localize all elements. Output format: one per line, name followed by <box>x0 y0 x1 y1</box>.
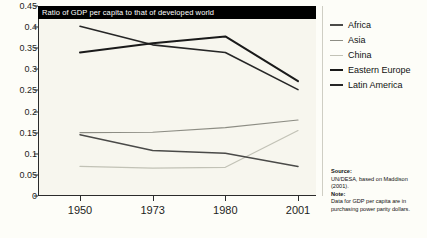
y-axis-tick-label: 0.3 <box>3 64 37 74</box>
y-axis-tick-label: 0.45 <box>3 1 37 11</box>
x-axis-tick-label: 2001 <box>286 204 310 216</box>
chart-screenshot: 00.050.10.150.20.250.30.350.40.45 195019… <box>0 0 427 238</box>
legend-item-label: China <box>348 50 372 60</box>
x-axis-tick-mark <box>225 196 226 201</box>
legend-item-label: Africa <box>348 20 371 30</box>
legend-item[interactable]: Eastern Europe <box>330 63 425 77</box>
note-text: Data for GDP per capita are in purchasin… <box>331 198 425 213</box>
y-axis-tick-label: 0 <box>3 191 37 201</box>
y-axis-tick-label: 0.15 <box>3 128 37 138</box>
legend-item[interactable]: Asia <box>330 33 425 47</box>
x-axis-tick-label: 1950 <box>68 204 92 216</box>
source-heading: Source: <box>331 168 425 176</box>
legend: AfricaAsiaChinaEastern EuropeLatin Ameri… <box>330 18 425 93</box>
series-line <box>80 36 298 81</box>
y-axis: 00.050.10.150.20.250.30.350.40.45 <box>0 0 37 238</box>
note-heading: Note: <box>331 191 425 199</box>
x-axis-tick-mark <box>298 196 299 201</box>
legend-line-icon <box>330 24 343 26</box>
y-axis-tick-label: 0.35 <box>3 43 37 53</box>
legend-item-label: Eastern Europe <box>348 65 411 75</box>
legend-line-icon <box>330 55 343 56</box>
source-and-note: Source: UN/DESA, based on Maddison (2001… <box>331 168 425 214</box>
series-line <box>80 131 298 169</box>
legend-item-label: Asia <box>348 35 366 45</box>
data-lines <box>38 6 316 196</box>
column-divider <box>322 6 323 196</box>
legend-item-label: Latin America <box>348 80 403 90</box>
legend-line-icon <box>330 69 343 71</box>
source-text: UN/DESA, based on Maddison (2001). <box>331 176 425 191</box>
series-line <box>80 120 298 133</box>
series-line <box>80 26 298 89</box>
y-axis-tick-label: 0.4 <box>3 22 37 32</box>
legend-item[interactable]: Latin America <box>330 78 425 92</box>
y-axis-tick-label: 0.25 <box>3 85 37 95</box>
chart-title: Ratio of GDP per capita to that of devel… <box>38 6 316 19</box>
legend-line-icon <box>330 84 343 86</box>
legend-line-icon <box>330 40 343 41</box>
y-axis-tick-label: 0.05 <box>3 170 37 180</box>
legend-item[interactable]: Africa <box>330 18 425 32</box>
y-axis-tick-label: 0.2 <box>3 107 37 117</box>
x-axis-tick-label: 1980 <box>213 204 237 216</box>
series-line <box>80 135 298 167</box>
x-axis-tick-mark <box>80 196 81 201</box>
chart-area: 00.050.10.150.20.250.30.350.40.45 195019… <box>0 0 320 238</box>
legend-item[interactable]: China <box>330 48 425 62</box>
x-axis-tick-label: 1973 <box>140 204 164 216</box>
x-axis-tick-mark <box>153 196 154 201</box>
y-axis-tick-label: 0.1 <box>3 149 37 159</box>
